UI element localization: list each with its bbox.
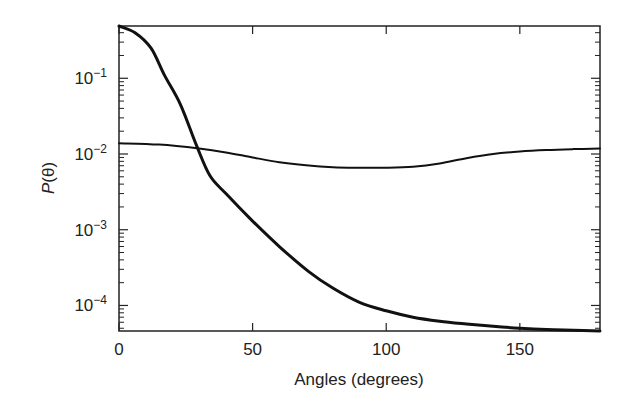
y-axis-title-italic: P bbox=[39, 182, 58, 194]
series-line-1 bbox=[119, 26, 600, 331]
y-tick-label: 10−2 bbox=[74, 142, 107, 164]
y-tick-label: 10−3 bbox=[74, 218, 107, 240]
x-axis-ticks: 050100150 bbox=[114, 26, 534, 359]
y-axis-ticks: 10−110−210−310−4 bbox=[74, 66, 600, 315]
plot-frame bbox=[119, 26, 600, 331]
x-tick-label: 100 bbox=[372, 340, 400, 359]
series-lines bbox=[119, 26, 600, 331]
series-line-2 bbox=[119, 143, 600, 168]
chart: 050100150 10−110−210−310−4 Angles (degre… bbox=[0, 0, 623, 408]
y-axis-title-rest: (θ) bbox=[39, 162, 58, 183]
plot-border bbox=[119, 26, 600, 331]
y-tick-label: 10−1 bbox=[74, 66, 107, 88]
y-minor-ticks bbox=[119, 33, 600, 329]
x-tick-label: 0 bbox=[114, 340, 123, 359]
x-tick-label: 50 bbox=[243, 340, 262, 359]
x-axis-title: Angles (degrees) bbox=[294, 370, 423, 389]
x-tick-label: 150 bbox=[506, 340, 534, 359]
y-axis-title: P(θ) bbox=[39, 162, 58, 194]
y-tick-label: 10−4 bbox=[74, 293, 107, 315]
